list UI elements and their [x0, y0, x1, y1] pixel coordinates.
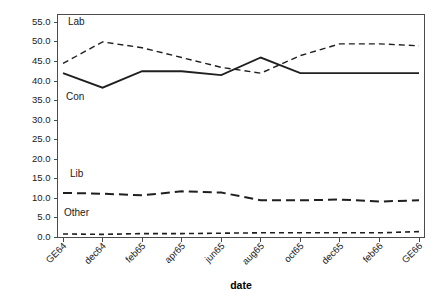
y-tick-label: 15.0 [32, 172, 51, 183]
x-tick-label: dec64 [82, 240, 108, 266]
y-tick-label: 30.0 [32, 114, 51, 125]
series-line-lib [63, 191, 419, 201]
series-lines [63, 42, 419, 234]
y-tick-label: 40.0 [32, 75, 51, 86]
plot-frame [58, 15, 425, 238]
y-tick-label: 55.0 [32, 16, 51, 27]
x-tick-label: GE66 [399, 240, 424, 265]
x-axis-title: date [230, 279, 252, 291]
series-label-lab: Lab [68, 16, 85, 27]
series-line-lab [63, 42, 419, 73]
series-label-other: Other [64, 207, 90, 218]
x-tick-label: dec65 [319, 240, 345, 266]
y-tick-label: 25.0 [32, 133, 51, 144]
y-tick-label: 5.0 [37, 211, 50, 222]
series-inline-labels: LabConLibOther [64, 16, 90, 218]
x-tick-label: apr65 [162, 240, 187, 265]
series-label-lib: Lib [70, 168, 84, 179]
series-line-other [63, 232, 419, 235]
line-chart: 0.05.010.015.020.025.030.035.040.045.050… [0, 0, 441, 307]
x-axis-ticks: GE64dec64feb65apr65jun65aug65oct65dec65f… [43, 238, 424, 267]
series-line-con [63, 58, 419, 88]
x-tick-label: aug65 [240, 240, 266, 266]
x-tick-label: GE64 [43, 240, 68, 265]
y-tick-label: 45.0 [32, 55, 51, 66]
y-tick-label: 10.0 [32, 192, 51, 203]
y-tick-label: 20.0 [32, 153, 51, 164]
y-tick-label: 35.0 [32, 94, 51, 105]
y-tick-label: 0.0 [37, 231, 50, 242]
x-tick-label: jun65 [202, 240, 227, 265]
y-axis-ticks: 0.05.010.015.020.025.030.035.040.045.050… [32, 16, 58, 242]
series-label-con: Con [66, 91, 84, 102]
y-tick-label: 50.0 [32, 35, 51, 46]
x-tick-label: feb65 [123, 240, 148, 265]
x-tick-label: oct65 [282, 240, 306, 264]
x-tick-label: feb66 [360, 240, 385, 265]
chart-container: 0.05.010.015.020.025.030.035.040.045.050… [0, 0, 441, 307]
